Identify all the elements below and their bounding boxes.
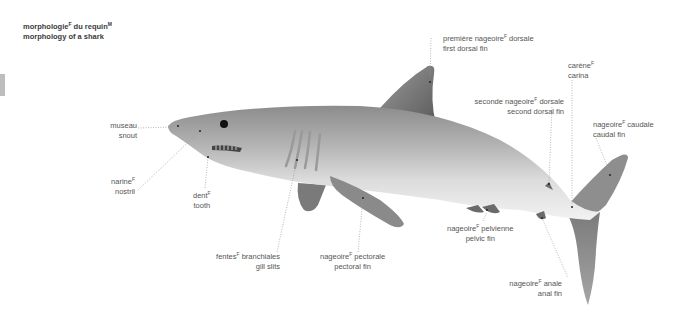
label-fr: narineF <box>111 177 135 187</box>
label-gill-slits: fentesF branchiales gill slits <box>216 252 280 271</box>
label-nostril: narineF nostril <box>111 177 135 196</box>
label-en: first dorsal fin <box>443 44 534 54</box>
label-en: anal fin <box>509 289 562 299</box>
label-en: gill slits <box>216 262 280 272</box>
caudal-fin-lower <box>565 210 600 305</box>
label-anal-fin: nageoireF anale anal fin <box>509 279 562 298</box>
label-fr: carèneF <box>568 61 594 71</box>
shark-body <box>168 106 600 220</box>
label-carina: carèneF carina <box>568 61 594 80</box>
label-fr: nageoireF pelvienne <box>447 224 513 234</box>
label-fr: première nageoireF dorsale <box>443 34 534 44</box>
label-fr: nageoireF caudale <box>593 120 654 130</box>
label-snout: museau snout <box>110 121 137 140</box>
label-caudal-fin: nageoireF caudale caudal fin <box>593 120 654 139</box>
label-fr: museau <box>110 121 137 131</box>
label-second-dorsal-fin: seconde nageoireF dorsale second dorsal … <box>475 97 564 116</box>
label-en: tooth <box>193 201 211 211</box>
label-fr: seconde nageoireF dorsale <box>475 97 564 107</box>
label-fr: nageoireF anale <box>509 279 562 289</box>
label-en: pelvic fin <box>447 234 513 244</box>
label-en: caudal fin <box>593 130 654 140</box>
label-pectoral-fin: nageoireF pectorale pectoral fin <box>320 252 385 271</box>
label-en: second dorsal fin <box>475 107 564 117</box>
eye <box>220 120 228 128</box>
label-fr: nageoireF pectorale <box>320 252 385 262</box>
label-en: nostril <box>111 187 135 197</box>
label-pelvic-fin: nageoireF pelvienne pelvic fin <box>447 224 513 243</box>
label-en: snout <box>110 131 137 141</box>
label-fr: fentesF branchiales <box>216 252 280 262</box>
label-en: carina <box>568 71 594 81</box>
label-fr: dentF <box>193 191 211 201</box>
label-en: pectoral fin <box>320 262 385 272</box>
label-first-dorsal-fin: première nageoireF dorsale first dorsal … <box>443 34 534 53</box>
label-tooth: dentF tooth <box>193 191 211 210</box>
pelvic-fin-shadow <box>298 183 326 211</box>
